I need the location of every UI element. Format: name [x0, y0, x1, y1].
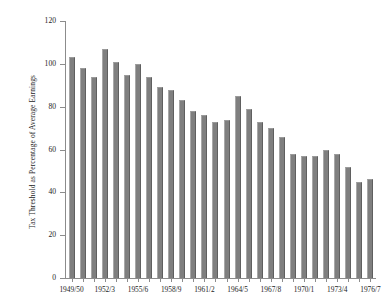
y-tick-label: 0: [26, 274, 56, 282]
bar: [301, 156, 307, 278]
bar: [290, 154, 296, 278]
y-tick-60: [60, 150, 65, 151]
bar: [201, 115, 207, 278]
x-tick: [149, 279, 150, 282]
x-tick: [138, 279, 139, 282]
x-tick: [215, 279, 216, 282]
x-tick: [304, 279, 305, 282]
bar: [157, 87, 163, 278]
x-tick: [271, 279, 272, 282]
x-tick: [171, 279, 172, 282]
x-axis-line: [65, 278, 376, 279]
x-tick: [83, 279, 84, 282]
y-tick-label: 20: [26, 231, 56, 239]
x-tick: [227, 279, 228, 282]
bar: [345, 167, 351, 278]
y-tick-40: [60, 192, 65, 193]
x-tick: [315, 279, 316, 282]
bar: [124, 75, 130, 278]
x-tick: [182, 279, 183, 282]
x-tick: [94, 279, 95, 282]
x-tick: [348, 279, 349, 282]
bar: [279, 137, 285, 278]
x-tick: [238, 279, 239, 282]
bar: [268, 128, 274, 278]
y-tick-20: [60, 235, 65, 236]
x-tick: [260, 279, 261, 282]
bar: [356, 182, 362, 278]
y-tick-100: [60, 64, 65, 65]
bar: [212, 122, 218, 278]
bar: [334, 154, 340, 278]
x-tick: [105, 279, 106, 282]
bar: [235, 96, 241, 278]
x-tick: [370, 279, 371, 282]
bar: [102, 49, 108, 278]
bar: [168, 90, 174, 278]
bar: [367, 179, 373, 278]
y-tick-label-wrap: 20: [22, 231, 56, 239]
bar: [323, 150, 329, 279]
y-tick-label: 100: [26, 60, 56, 68]
x-tick: [326, 279, 327, 282]
bar: [113, 62, 119, 278]
x-tick: [293, 279, 294, 282]
x-tick: [160, 279, 161, 282]
y-tick-label-wrap: 60: [22, 146, 56, 154]
bar: [80, 68, 86, 278]
x-tick: [282, 279, 283, 282]
y-tick-label-wrap: 40: [22, 188, 56, 196]
x-tick: [249, 279, 250, 282]
x-tick: [337, 279, 338, 282]
bar: [312, 156, 318, 278]
bar: [135, 64, 141, 278]
bar: [224, 120, 230, 278]
y-tick-label-wrap: 100: [22, 60, 56, 68]
y-tick-label: 80: [26, 103, 56, 111]
y-tick-label: 120: [26, 17, 56, 25]
x-tick: [116, 279, 117, 282]
y-tick-label-wrap: 80: [22, 103, 56, 111]
bar: [91, 77, 97, 278]
bar: [246, 109, 252, 278]
bar: [69, 57, 75, 278]
y-tick-80: [60, 107, 65, 108]
y-tick-0: [60, 278, 65, 279]
bar: [190, 111, 196, 278]
y-tick-label: 60: [26, 146, 56, 154]
y-tick-label-wrap: 0: [22, 274, 56, 282]
bar: [146, 77, 152, 278]
x-tick-label: 1976/7: [348, 285, 386, 294]
y-tick-label: 40: [26, 188, 56, 196]
x-tick: [204, 279, 205, 282]
x-tick: [193, 279, 194, 282]
x-tick: [72, 279, 73, 282]
y-tick-120: [60, 21, 65, 22]
x-tick: [127, 279, 128, 282]
x-tick: [359, 279, 360, 282]
bars-container: [66, 21, 376, 278]
bar: [179, 100, 185, 278]
bar: [257, 122, 263, 278]
bar-chart-figure: Tax Threshold as Percentage of Average E…: [0, 0, 386, 307]
y-tick-label-wrap: 120: [22, 17, 56, 25]
